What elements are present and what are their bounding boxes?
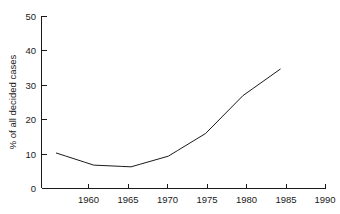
y-tick-label: 30: [25, 80, 36, 91]
x-tick-label: 1965: [118, 194, 139, 205]
y-axis-title: % of all decided cases: [7, 54, 18, 149]
x-tick-label: 1975: [196, 194, 217, 205]
chart-canvas: 50 40 30 20 10 0 1960 1965 1970 1975 198…: [0, 0, 340, 214]
x-tick-label: 1990: [314, 194, 335, 205]
y-tick-label: 0: [31, 183, 36, 194]
y-tick-label: 50: [25, 11, 36, 22]
y-tick-label: 20: [25, 114, 36, 125]
x-tick-label: 1970: [157, 194, 178, 205]
x-tick-label: 1980: [236, 194, 257, 205]
x-tick-label: 1985: [275, 194, 296, 205]
y-tick-label: 10: [25, 149, 36, 160]
line-chart: 50 40 30 20 10 0 1960 1965 1970 1975 198…: [0, 0, 340, 214]
y-tick-label: 40: [25, 45, 36, 56]
chart-background: [0, 0, 340, 214]
x-tick-label: 1960: [78, 194, 99, 205]
